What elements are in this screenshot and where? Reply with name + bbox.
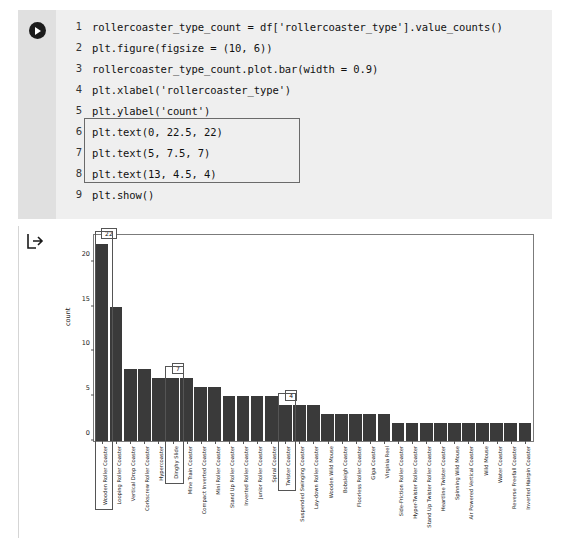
bar (152, 378, 165, 441)
code-line[interactable]: 5plt.ylabel('count') (56, 100, 552, 121)
bar-slot: Junior Roller Coaster (250, 235, 264, 441)
x-tick-label: Spiral Coaster (271, 446, 277, 482)
x-tick-label: Lay-down Roller Coaster (313, 446, 319, 509)
bar-slot: Compact Inverted Coaster (194, 235, 208, 441)
bar-slot: Giga Coaster (363, 235, 377, 441)
bar-slot: Vertical Drop Coaster (123, 235, 137, 441)
bar-slot: Twister Coaster (278, 235, 292, 441)
bar-slot: Side-Friction Roller Coaster (391, 235, 405, 441)
bar (504, 423, 517, 441)
y-tick-label: 15 (82, 295, 90, 303)
line-number: 5 (56, 105, 92, 116)
bar (363, 414, 376, 441)
bar-slot: Water Coaster (490, 235, 504, 441)
run-cell-gutter[interactable] (18, 10, 56, 219)
notebook-code-cell[interactable]: 1rollercoaster_type_count = df['rollerco… (18, 10, 552, 219)
bar (237, 396, 250, 441)
x-tick-mark (454, 441, 455, 444)
x-tick-label: Inverted Hairpin Coaster (525, 446, 531, 510)
bar-slot: Reverse Freefall Coaster (504, 235, 518, 441)
x-tick-label: Corkscrew Roller Coaster (144, 446, 150, 511)
code-line[interactable]: 7plt.text(5, 7.5, 7) (56, 142, 552, 163)
code-source[interactable]: plt.text(5, 7.5, 7) (92, 147, 210, 159)
bar (378, 414, 391, 441)
code-line[interactable]: 8plt.text(13, 4.5, 4) (56, 163, 552, 184)
x-tick-mark (130, 441, 131, 444)
bar (166, 378, 179, 441)
bar-slot: Wooden Wild Mouse (321, 235, 335, 441)
code-source[interactable]: rollercoaster_type_count = df['rollercoa… (92, 21, 503, 33)
code-editor[interactable]: 1rollercoaster_type_count = df['rollerco… (56, 10, 552, 219)
line-number: 6 (56, 126, 92, 137)
code-line[interactable]: 3rollercoaster_type_count.plot.bar(width… (56, 58, 552, 79)
x-tick-mark (187, 441, 188, 444)
bar-slot: Heartline Twister Coaster (433, 235, 447, 441)
bar-slot: Inverted Roller Coaster (236, 235, 250, 441)
bar-slot: Lay-down Roller Coaster (306, 235, 320, 441)
bar (434, 423, 447, 441)
x-tick-mark (384, 441, 385, 444)
bar-slot: Hypercoaster (151, 235, 165, 441)
code-line[interactable]: 1rollercoaster_type_count = df['rollerco… (56, 16, 552, 37)
x-tick-mark (299, 441, 300, 444)
line-number: 8 (56, 168, 92, 179)
y-tick-label: 10 (82, 339, 90, 347)
bar-slot: Spinning Wild Mouse (447, 235, 461, 441)
code-source[interactable]: rollercoaster_type_count.plot.bar(width … (92, 63, 378, 75)
bar-slot: Mine Train Coaster (180, 235, 194, 441)
matplotlib-figure: count 05101520 Wooden Roller CoasterLoop… (66, 232, 536, 442)
bar-slot: Wild Mouse (476, 235, 490, 441)
code-source[interactable]: plt.xlabel('rollercoaster_type') (92, 84, 291, 96)
x-tick-label: Reverse Freefall Coaster (511, 446, 517, 509)
bar-slot: Virginia Reel (377, 235, 391, 441)
bar-slot: Suspended Swinging Coaster (292, 235, 306, 441)
x-tick-mark (440, 441, 441, 444)
x-tick-mark (215, 441, 216, 444)
x-tick-label: Heartline Twister Coaster (440, 446, 446, 511)
line-number: 7 (56, 147, 92, 158)
bar (335, 414, 348, 441)
y-tick-label: 0 (86, 429, 90, 437)
bar (180, 378, 193, 441)
x-tick-mark (313, 441, 314, 444)
bar-slot: Spiral Coaster (264, 235, 278, 441)
line-number: 2 (56, 42, 92, 53)
x-tick-label: Side-Friction Roller Coaster (398, 446, 404, 516)
code-source[interactable]: plt.figure(figsize = (10, 6)) (92, 42, 272, 54)
code-line[interactable]: 4plt.xlabel('rollercoaster_type') (56, 79, 552, 100)
x-tick-label: Inverted Roller Coaster (243, 446, 249, 506)
bar-series: Wooden Roller CoasterLooping Roller Coas… (95, 235, 532, 441)
code-source[interactable]: plt.show() (92, 189, 154, 201)
code-line[interactable]: 6plt.text(0, 22.5, 22) (56, 121, 552, 142)
y-tick-mark (91, 395, 94, 396)
x-tick-label: Looping Roller Coaster (116, 446, 122, 505)
x-tick-label: Hyper-Twister Roller Coaster (412, 446, 418, 519)
x-tick-mark (201, 441, 202, 444)
bar (223, 396, 236, 441)
play-icon[interactable] (29, 22, 46, 39)
x-tick-mark (271, 441, 272, 444)
x-tick-mark (412, 441, 413, 444)
bar (420, 423, 433, 441)
code-line[interactable]: 9plt.show() (56, 184, 552, 205)
bar (251, 396, 264, 441)
chart-annotation: 4 (285, 390, 297, 401)
code-source[interactable]: plt.text(13, 4.5, 4) (92, 168, 216, 180)
output-arrow-icon (25, 232, 45, 250)
x-tick-label: Wild Mouse (483, 446, 489, 476)
bar (519, 423, 532, 441)
code-line[interactable]: 2plt.figure(figsize = (10, 6)) (56, 37, 552, 58)
x-tick-mark (426, 441, 427, 444)
code-source[interactable]: plt.ylabel('count') (92, 105, 210, 117)
x-tick-mark (257, 441, 258, 444)
x-tick-label: Wooden Wild Mouse (328, 446, 334, 498)
code-source[interactable]: plt.text(0, 22.5, 22) (92, 126, 223, 138)
x-tick-mark (158, 441, 159, 444)
bar-slot: Dinghy Slide (165, 235, 179, 441)
x-tick-label: Bobsleigh Coaster (342, 446, 348, 493)
x-tick-mark (468, 441, 469, 444)
x-tick-label: Stand Up Roller Coaster (229, 446, 235, 508)
x-tick-label: Hypercoaster (158, 446, 164, 481)
bar-slot: Inverted Hairpin Coaster (518, 235, 532, 441)
x-tick-mark (116, 441, 117, 444)
